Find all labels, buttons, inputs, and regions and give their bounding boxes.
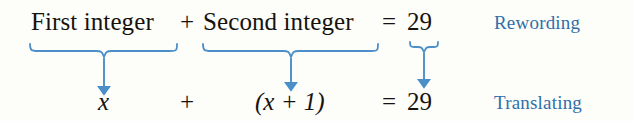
brace-first-integer: [30, 44, 177, 92]
translating-operator-plus: +: [180, 88, 194, 116]
equation-translation-figure: First integer + Second integer = 29 Rewo…: [0, 0, 633, 121]
rewording-term-1: First integer: [31, 8, 154, 36]
rewording-result: 29: [407, 8, 432, 36]
translating-result: 29: [407, 88, 432, 116]
brace-twenty-nine: [410, 42, 438, 85]
translating-equals-sign: =: [382, 88, 396, 116]
translating-term-1: x: [98, 88, 109, 116]
brace-second-integer: [203, 44, 378, 88]
label-translating: Translating: [494, 92, 582, 114]
rewording-term-2: Second integer: [203, 8, 354, 36]
rewording-operator-plus: +: [180, 8, 194, 36]
translating-term-2: (x + 1): [255, 88, 325, 116]
rewording-equals-sign: =: [382, 8, 396, 36]
label-rewording: Rewording: [494, 12, 580, 34]
